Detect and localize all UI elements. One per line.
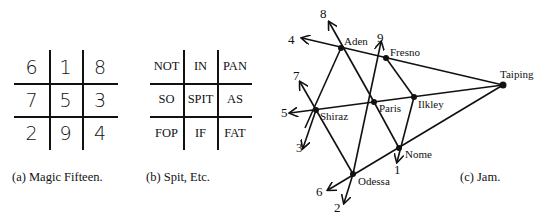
route-line	[329, 22, 374, 102]
arrow-label-9: 9	[377, 30, 384, 45]
arrow-label-8: 8	[320, 6, 327, 21]
node-label-nome: Nome	[405, 148, 432, 160]
node-label-taiping: Taiping	[500, 68, 534, 80]
arrow-label-2: 2	[334, 200, 341, 214]
jam-caption: (c) Jam.	[460, 170, 500, 185]
node-odessa	[350, 171, 356, 177]
arrow-label-1: 1	[394, 162, 401, 177]
arrow-label-5: 5	[281, 105, 288, 120]
node-paris	[371, 99, 377, 105]
node-taiping	[500, 82, 507, 89]
node-fresno	[383, 55, 389, 61]
node-nome	[396, 145, 402, 151]
node-label-fresno: Fresno	[390, 46, 420, 58]
node-label-odessa: Odessa	[358, 175, 390, 187]
route-line	[300, 82, 353, 174]
node-ilkley	[411, 94, 417, 100]
route-line	[303, 110, 316, 148]
node-label-aden: Aden	[344, 35, 368, 47]
arrow-label-7: 7	[293, 68, 300, 83]
node-label-shiraz: Shiraz	[320, 110, 348, 122]
node-label-paris: Paris	[379, 102, 401, 114]
arrow-label-6: 6	[316, 184, 323, 199]
node-label-ilkley: Ilkley	[418, 98, 444, 110]
arrow-label-4: 4	[288, 32, 295, 47]
node-shiraz	[313, 107, 319, 113]
arrow-label-3: 3	[296, 140, 303, 155]
